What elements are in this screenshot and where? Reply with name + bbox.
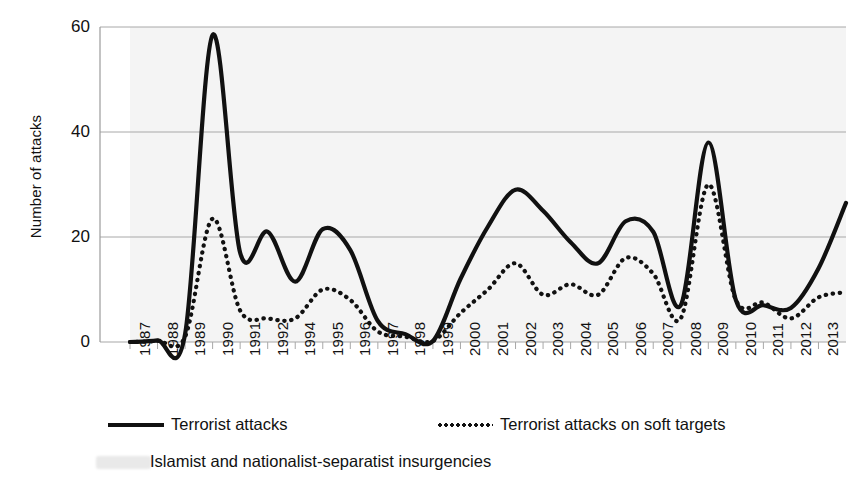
chart-legend: Terrorist attacks Terrorist attacks on s… xyxy=(0,415,866,445)
plot-background xyxy=(130,27,846,342)
scan-artifact xyxy=(96,456,151,469)
solid-line-swatch-icon xyxy=(108,418,164,432)
legend-label-soft-targets: Terrorist attacks on soft targets xyxy=(500,415,726,434)
x-axis-tick-marks xyxy=(130,342,818,349)
chart-figure: Number of attacks 0204060 19871988198919… xyxy=(0,0,866,488)
legend-item-soft-targets: Terrorist attacks on soft targets xyxy=(437,415,726,434)
figure-caption: Islamist and nationalist-separatist insu… xyxy=(150,452,491,471)
legend-item-terrorist-attacks: Terrorist attacks xyxy=(108,415,287,434)
legend-label-terrorist-attacks: Terrorist attacks xyxy=(171,415,287,434)
dotted-line-swatch-icon xyxy=(437,418,493,432)
